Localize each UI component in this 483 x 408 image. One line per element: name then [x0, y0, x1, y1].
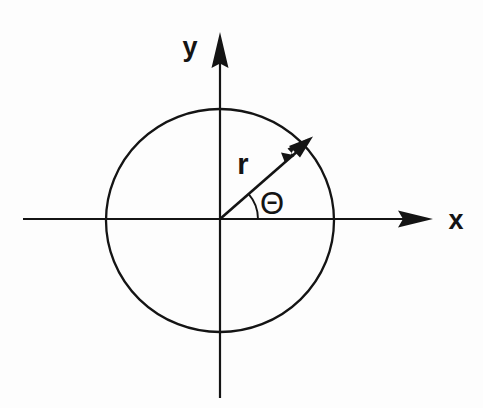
angle-label: Θ [260, 186, 284, 221]
figure-canvas: y x r Θ [0, 0, 483, 408]
x-axis-label: x [448, 205, 463, 235]
radius-label: r [237, 148, 248, 180]
y-axis-label: y [182, 32, 197, 62]
polar-coordinate-diagram: y x r Θ [0, 0, 483, 408]
diagram-background [0, 0, 483, 408]
